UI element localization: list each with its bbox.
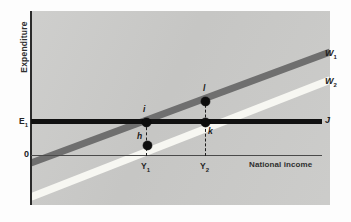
x-axis-line bbox=[31, 155, 322, 156]
curve-label-j: J bbox=[325, 115, 330, 125]
curve-label-w2-sub: 2 bbox=[334, 82, 337, 88]
origin-label: 0 bbox=[24, 149, 29, 159]
x-tick-label-y2: Y2 bbox=[200, 161, 209, 173]
y-axis-title: Expenditure bbox=[19, 7, 29, 87]
curve-label-w2-text: W bbox=[325, 76, 334, 86]
data-point-i bbox=[142, 118, 151, 127]
point-label-l: l bbox=[203, 83, 205, 93]
x-tick-label-y1-sub: 1 bbox=[147, 167, 150, 173]
curve-label-w1: W1 bbox=[325, 48, 337, 60]
curve-w2-line bbox=[31, 80, 330, 197]
x-tick-label-y2-sub: 2 bbox=[206, 167, 209, 173]
dropline-y1 bbox=[146, 122, 147, 156]
y-axis-line bbox=[30, 11, 32, 205]
schedule-lines-layer bbox=[0, 0, 351, 222]
dropline-y2 bbox=[205, 100, 206, 156]
y-tick-label-e1: E1 bbox=[19, 116, 28, 128]
data-point-l bbox=[201, 97, 210, 106]
curve-label-w1-text: W bbox=[325, 48, 334, 58]
curve-label-w2: W2 bbox=[325, 76, 337, 88]
point-label-i: i bbox=[143, 104, 145, 114]
curve-j-line bbox=[31, 119, 322, 124]
x-tick-label-y1: Y1 bbox=[141, 161, 150, 173]
point-label-k: k bbox=[208, 126, 213, 136]
point-label-h: h bbox=[137, 131, 142, 141]
data-point-h bbox=[143, 141, 152, 150]
curve-label-w1-sub: 1 bbox=[334, 54, 337, 60]
x-axis-title: National income bbox=[249, 160, 312, 169]
curve-w1-line bbox=[31, 52, 330, 163]
y-tick-label-e1-sub: 1 bbox=[25, 122, 28, 128]
figure-canvas: i h l k Expenditure National income E1 0… bbox=[0, 0, 351, 222]
